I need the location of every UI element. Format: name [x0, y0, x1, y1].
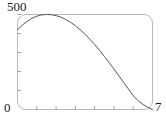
x-axis-max-label: 7 — [155, 100, 162, 113]
y-axis-max-label: 500 — [7, 0, 27, 13]
plot-frame — [17, 14, 153, 110]
chart-screenshot: 500 0 7 — [0, 0, 166, 125]
axis-origin-label: 0 — [4, 101, 11, 114]
